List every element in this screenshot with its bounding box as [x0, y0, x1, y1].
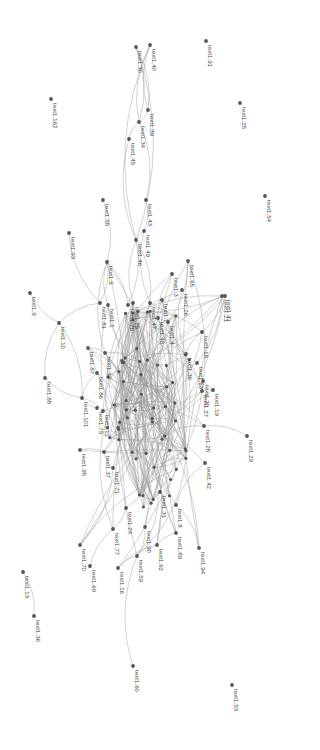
graph-node: text1.28 — [202, 424, 212, 452]
node-label: text1.63 — [198, 367, 205, 390]
node-dot — [155, 543, 159, 547]
graph-node: text1.59 — [135, 554, 145, 582]
node-label: text1.36 — [187, 358, 194, 381]
node-dot — [78, 543, 82, 547]
node-label: text1.79 — [98, 412, 105, 435]
graph-node — [117, 370, 120, 373]
node-dot — [203, 461, 207, 465]
graph-node — [151, 417, 154, 420]
node-label: text1.4 — [169, 326, 176, 345]
node-dot — [195, 361, 199, 365]
node-label: text1.93 — [70, 237, 77, 260]
node-label: text1.31 — [161, 496, 168, 519]
node-label: text1.91 — [207, 45, 214, 68]
graph-node: text1.21 — [220, 294, 230, 322]
node-label: text1.59 — [138, 560, 145, 583]
graph-node — [125, 408, 128, 411]
node-dot — [170, 272, 174, 276]
node-dot — [32, 614, 36, 618]
graph-node — [164, 405, 167, 408]
graph-node: text1.89 — [174, 531, 184, 559]
node-label: text1.70 — [81, 549, 88, 572]
graph-edge — [157, 533, 176, 545]
node-dot — [144, 198, 148, 202]
graph-node — [160, 438, 163, 441]
node-dot — [146, 108, 150, 112]
node-label: text1.95 — [81, 454, 88, 477]
graph-edge — [82, 373, 97, 398]
node-label: text1.62 — [158, 549, 165, 572]
graph-node: text1.19 — [211, 388, 221, 416]
graph-node — [134, 409, 137, 412]
node-label: text1.81 — [101, 307, 108, 330]
node-label: text1.21 — [223, 300, 230, 323]
graph-edge — [100, 262, 108, 303]
graph-node: text1.43 — [144, 198, 154, 226]
graph-node — [175, 468, 178, 471]
node-label: text1.16 — [119, 572, 126, 595]
graph-node: text1.37 — [102, 450, 112, 478]
node-dot — [230, 683, 234, 687]
graph-node — [165, 364, 168, 367]
node-dot — [98, 301, 102, 305]
graph-node — [174, 314, 177, 317]
graph-node — [140, 373, 143, 376]
graph-node: text1.62 — [155, 543, 165, 571]
node-dot — [202, 424, 206, 428]
graph-node — [173, 401, 176, 404]
node-label: text1.42 — [206, 467, 213, 490]
graph-node — [184, 449, 187, 452]
node-dot — [134, 45, 138, 49]
node-dot — [111, 527, 115, 531]
node-dot — [106, 303, 110, 307]
node-label: text1.7 — [163, 304, 170, 323]
node-dot — [263, 194, 267, 198]
graph-node — [122, 380, 125, 383]
node-label: text1.39 — [149, 114, 156, 137]
graph-edge — [90, 529, 113, 566]
node-dot — [174, 531, 178, 535]
node-label: text1.29 — [248, 440, 255, 463]
node-label: text1.26 — [183, 294, 190, 317]
node-label: text1.60 — [134, 670, 141, 693]
node-label: text1.69 — [91, 570, 98, 593]
graph-node — [156, 363, 159, 366]
node-dot — [124, 506, 128, 510]
graph-node — [146, 359, 149, 362]
graph-edge — [129, 122, 139, 139]
graph-node — [125, 399, 128, 402]
node-dot — [160, 298, 164, 302]
graph-edge — [118, 556, 137, 568]
node-label: text1.27 — [203, 395, 210, 418]
node-dot — [204, 39, 208, 43]
node-dot — [49, 97, 53, 101]
node-label: text1.25 — [241, 107, 248, 130]
node-dot — [101, 198, 105, 202]
node-dot — [200, 389, 204, 393]
graph-node: text1.77 — [111, 527, 121, 555]
node-dot — [86, 346, 90, 350]
graph-node: text1.101 — [80, 396, 90, 428]
graph-node: text1.10 — [57, 321, 67, 349]
graph-node: text1.54 — [263, 194, 273, 222]
graph-edge — [128, 240, 139, 305]
node-dot — [103, 351, 107, 355]
node-label: text1.5 — [108, 266, 115, 285]
graph-node — [140, 393, 143, 396]
graph-node — [174, 419, 177, 422]
node-dot — [67, 231, 71, 235]
node-dot — [127, 137, 131, 141]
graph-node — [142, 505, 145, 508]
graph-node: text1.42 — [203, 461, 213, 489]
node-dot — [78, 448, 82, 452]
graph-edge — [45, 323, 59, 378]
graph-node — [146, 310, 149, 313]
graph-node — [135, 347, 138, 350]
node-dot — [197, 546, 201, 550]
graph-node: text1.53 — [230, 683, 240, 711]
graph-node — [151, 420, 154, 423]
node-dot — [101, 409, 105, 413]
node-dot — [135, 554, 139, 558]
node-dot — [184, 352, 188, 356]
node-dot — [158, 490, 162, 494]
